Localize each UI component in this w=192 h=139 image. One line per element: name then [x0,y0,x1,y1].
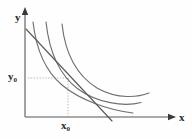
x-zero-tick-label: x0 [61,120,70,131]
y-zero-subscript: 0 [14,76,18,84]
budget-line [26,29,112,121]
figure-canvas [0,0,192,139]
guide-lines-group [25,78,69,117]
y-axis-label: y [15,12,21,23]
y-zero-tick-label: y0 [8,71,17,82]
x-axis-arrowhead [168,114,176,120]
x-zero-subscript: 0 [67,125,71,133]
y-axis-arrowhead [22,7,28,15]
indifference-curve-2 [46,22,141,104]
x-axis-label: x [179,112,185,123]
budget-line-group [26,29,112,121]
y-zero-base: y [8,70,14,82]
x-zero-base: x [61,119,67,131]
indifference-curve-3 [62,24,149,97]
indifference-curve-figure: y x y0 x0 [0,0,192,139]
